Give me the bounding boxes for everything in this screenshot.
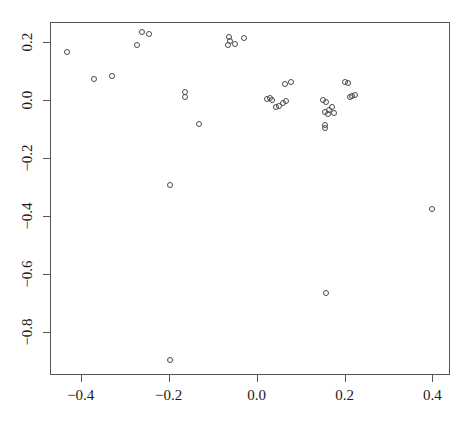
data-point xyxy=(331,110,337,116)
data-point xyxy=(134,42,140,48)
data-point xyxy=(267,95,273,101)
data-point xyxy=(64,49,70,55)
data-point xyxy=(139,29,145,35)
data-point xyxy=(225,42,231,48)
data-point xyxy=(167,357,173,363)
data-point xyxy=(109,73,115,79)
data-point xyxy=(167,182,173,188)
data-point xyxy=(323,99,329,105)
data-point xyxy=(182,94,188,100)
data-point xyxy=(345,80,351,86)
data-point xyxy=(146,31,152,37)
data-point xyxy=(282,81,288,87)
data-point xyxy=(288,79,294,85)
data-point xyxy=(91,76,97,82)
data-point xyxy=(196,121,202,127)
data-point xyxy=(323,290,329,296)
data-point xyxy=(322,125,328,131)
data-point xyxy=(352,92,358,98)
data-point xyxy=(232,41,238,47)
scatter-plot-figure: −0.4−0.20.00.20.4 0.20.0−0.2−0.4−0.6−0.8 xyxy=(0,0,472,435)
data-point xyxy=(429,206,435,212)
data-points-layer xyxy=(0,0,472,435)
data-point xyxy=(241,35,247,41)
data-point xyxy=(283,98,289,104)
